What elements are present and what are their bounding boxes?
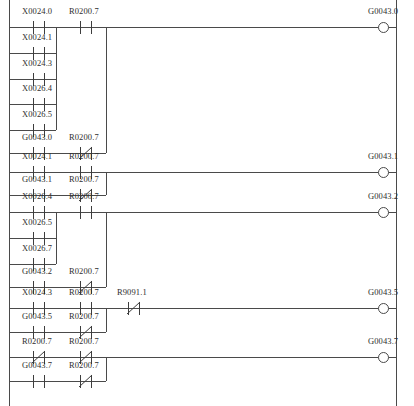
wire-rung1-branch-tie [56,27,57,130]
wire-rung1-main [9,27,396,28]
label-X0024-3: X0024.3 [22,287,52,297]
label-R0200-7: R0200.7 [69,287,99,297]
wire-rung5-main [9,357,396,358]
coil-G0043-0[interactable] [378,22,389,33]
label-R0200-7: R0200.7 [69,360,99,370]
label-G0043-0: G0043.0 [22,132,52,142]
label-X0026-5: X0026.5 [22,217,52,227]
coil-G0043-1[interactable] [378,167,389,178]
wire-rung4-seal-tie [106,308,107,332]
contact-bar-right [91,206,92,219]
label-G0043-2: G0043.2 [368,191,398,201]
contact-bar-left [33,375,34,388]
wire-rung3-seal-tie [106,212,107,287]
label-R0200-7: R0200.7 [22,336,52,346]
label-X0026-4: X0026.4 [22,83,52,93]
label-R0200-7: R0200.7 [69,174,99,184]
label-G0043-2: G0043.2 [22,266,52,276]
wire-rung1-seal-tie [106,27,107,153]
label-G0043-7: G0043.7 [22,360,52,370]
label-G0043-5: G0043.5 [22,311,52,321]
label-R9091-1: R9091.1 [117,287,147,297]
label-G0043-1: G0043.1 [368,151,398,161]
label-R0200-7: R0200.7 [69,311,99,321]
wire-left-rail [9,0,10,406]
ladder-diagram-canvas: X0024.0R0200.7G0043.0X0024.1X0024.3X0026… [0,0,414,406]
label-G0043-0: G0043.0 [368,6,398,16]
label-X0024-1: X0024.1 [22,151,52,161]
contact-bar-right [91,21,92,34]
wire-rung4-main [9,308,396,309]
label-X0024-1: X0024.1 [22,32,52,42]
coil-G0043-2[interactable] [378,207,389,218]
contact-bar-left [80,206,81,219]
label-R0200-7: R0200.7 [69,132,99,142]
coil-G0043-7[interactable] [378,352,389,363]
nc-slash-icon [79,374,93,389]
label-G0043-5: G0043.5 [368,287,398,297]
wire-rung3-branch-tie [56,212,57,264]
label-R0200-7: R0200.7 [69,336,99,346]
label-R0200-7: R0200.7 [69,191,99,201]
label-X0026-5: X0026.5 [22,109,52,119]
label-G0043-1: G0043.1 [22,174,52,184]
coil-G0043-5[interactable] [378,303,389,314]
contact-bar-left [80,21,81,34]
label-X0024-3: X0024.3 [22,58,52,68]
wire-rung2-seal-tie [106,172,107,195]
label-R0200-7: R0200.7 [69,6,99,16]
nc-slash-icon [127,301,141,316]
label-R0200-7: R0200.7 [69,266,99,276]
label-X0026-4: X0026.4 [22,191,52,201]
label-X0024-0: X0024.0 [22,6,52,16]
label-G0043-7: G0043.7 [368,336,398,346]
wire-rung2-main [9,172,396,173]
wire-rung5-seal-tie [106,357,107,381]
label-X0026-7: X0026.7 [22,243,52,253]
wire-rung3-main [9,212,396,213]
label-R0200-7: R0200.7 [69,151,99,161]
contact-bar-right [44,375,45,388]
